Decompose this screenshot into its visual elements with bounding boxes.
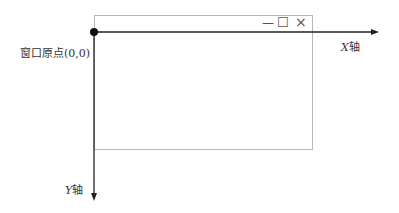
axes	[0, 0, 399, 213]
y-axis-suffix: 轴	[72, 184, 83, 197]
x-axis-arrow-icon	[371, 29, 379, 35]
x-axis-suffix: 轴	[349, 41, 360, 54]
origin-label: 窗口原点(0,0)	[20, 44, 90, 60]
origin-dot-icon	[90, 28, 98, 36]
x-axis-label: X轴	[341, 38, 360, 54]
x-axis-var: X	[341, 41, 349, 54]
y-axis-arrow-icon	[91, 193, 97, 201]
y-axis-label: Y轴	[65, 181, 83, 197]
